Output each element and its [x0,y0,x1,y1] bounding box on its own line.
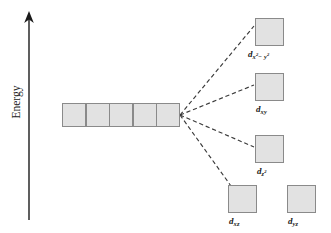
orbital-label-dxy-sub: xy [261,108,267,115]
connector-line-dxy [180,85,254,115]
degenerate-cell-1 [62,103,86,127]
orbital-label-dxy: dxy [256,104,267,114]
orbital-box-dx2-y2 [255,18,284,46]
orbital-label-dx2-y2-sub2: − y [258,53,267,60]
degenerate-cell-4 [133,103,157,127]
orbital-label-dx2-y2-sup2: 2 [267,52,269,57]
energy-axis [24,11,34,220]
orbital-label-dz2: dz2 [257,166,267,176]
orbital-box-dz2 [255,135,284,163]
degenerate-cell-2 [86,103,110,127]
connector-lines-group [180,26,254,186]
degenerate-cell-3 [109,103,133,127]
orbital-label-dx2-y2: dx2− y2 [248,49,269,59]
orbital-label-dyz-main: d [288,216,293,226]
orbital-box-dxy [255,73,284,101]
connector-line-dxz [180,115,231,186]
orbital-label-dxz-main: d [229,216,234,226]
orbital-label-dxz-sub: xz [234,220,240,227]
connector-line-dz2 [180,115,254,147]
orbital-label-dxz: dxz [229,216,240,226]
orbital-label-dx2-y2-sup1: 2 [256,52,258,57]
orbital-label-dyz: dyz [288,216,298,226]
crystal-field-splitting-diagram: Energy dx2− y2 dxy dz2 dxz dyz [0,0,331,233]
orbital-label-dxy-main: d [256,104,261,114]
degenerate-cell-5 [156,103,180,127]
orbital-label-dz2-sup1: 2 [264,169,266,174]
orbital-label-dyz-sub: yz [293,220,299,227]
orbital-box-dxz [228,185,257,213]
connector-line-dx2-y2 [180,26,254,115]
energy-axis-label: Energy [10,72,22,132]
orbital-box-dyz [287,185,316,213]
